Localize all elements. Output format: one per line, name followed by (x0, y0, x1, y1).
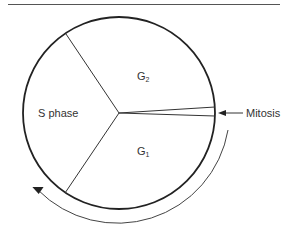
mitosis-pointer-arrowhead-icon (218, 110, 226, 116)
cycle-direction-arrowhead-icon (32, 185, 44, 195)
g2-label: G2 (137, 70, 150, 83)
cell-cycle-diagram: S phase G2 G1 Mitosis (0, 0, 293, 228)
divider-s-g2 (66, 34, 119, 113)
mitosis-label: Mitosis (246, 107, 281, 119)
divider-s-g1 (65, 113, 119, 193)
g1-label: G1 (137, 145, 150, 158)
s-phase-label: S phase (38, 107, 78, 119)
mitosis-wedge-lower (119, 113, 215, 116)
cycle-direction-arc (38, 130, 228, 223)
mitosis-wedge-upper (119, 107, 215, 113)
